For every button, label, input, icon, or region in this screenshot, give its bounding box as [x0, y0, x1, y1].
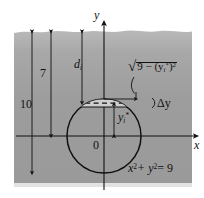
label-half-width-radical: √9 − (yi*)2	[128, 59, 176, 74]
label-origin: 0	[93, 139, 99, 151]
label-depth-surface-to-axis: 7	[40, 67, 46, 79]
label-strip-thickness: Δy	[157, 97, 171, 109]
label-depth-total: 10	[20, 98, 32, 110]
yi-star: *	[125, 111, 129, 120]
label-di-subscript: i	[80, 63, 82, 72]
delta-y-text: Δy	[157, 96, 171, 110]
figure-baseline-shadow	[14, 183, 192, 187]
hydrostatic-force-diagram: 10 7 di √9 − (yi*)2 Δy yi* 0 y x x2+ y2=…	[0, 0, 204, 198]
label-circle-equation: x2+ y2= 9	[128, 162, 173, 174]
radical-bar	[136, 62, 177, 63]
radical-sign: √	[128, 58, 136, 74]
label-sample-point: yi*	[118, 111, 129, 125]
eq-rhs: = 9	[157, 161, 173, 175]
eq-plus-y: + y	[137, 161, 153, 175]
label-y-axis: y	[94, 9, 99, 21]
label-x-axis: x	[194, 139, 199, 151]
label-depth-to-strip: di	[74, 58, 82, 72]
radical-body: 9 − (yi*)2	[136, 61, 176, 74]
